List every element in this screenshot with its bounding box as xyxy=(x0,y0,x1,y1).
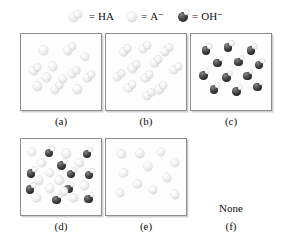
panel-label-a: (a) xyxy=(20,116,102,127)
panel-a-contents xyxy=(21,34,101,110)
panel-e[interactable] xyxy=(105,138,187,216)
a-minus-sphere-icon xyxy=(127,9,138,23)
panel-label-b: (b) xyxy=(105,116,187,127)
panel-c[interactable] xyxy=(190,33,272,111)
panel-e-contents xyxy=(106,139,186,215)
panel-b-contents xyxy=(106,34,186,110)
legend-item-ha: = HA xyxy=(69,7,114,25)
panel-label-c: (c) xyxy=(190,116,272,127)
oh-minus-sphere-icon xyxy=(177,9,189,23)
legend-equals-ha: = xyxy=(89,11,95,22)
legend-equals-a-minus: = xyxy=(141,11,147,22)
legend-label-a-minus: A⁻ xyxy=(150,11,164,22)
none-option-text[interactable]: None xyxy=(190,203,272,214)
ha-dimer-icon xyxy=(69,9,86,23)
legend-item-a-minus: = A⁻ xyxy=(127,7,164,25)
legend-item-oh-minus: = OH⁻ xyxy=(177,7,223,25)
panel-label-f: (f) xyxy=(190,221,272,232)
panel-d[interactable] xyxy=(20,138,102,216)
panel-label-d: (d) xyxy=(20,221,102,232)
legend-label-oh-minus: OH⁻ xyxy=(201,11,223,22)
panel-d-contents xyxy=(21,139,101,215)
legend-label-ha: HA xyxy=(98,11,114,22)
legend: = HA = A⁻ = OH⁻ xyxy=(0,6,292,26)
panel-label-e: (e) xyxy=(105,221,187,232)
panel-c-contents xyxy=(191,34,271,110)
legend-equals-oh-minus: = xyxy=(192,11,198,22)
panel-a[interactable] xyxy=(20,33,102,111)
panel-b[interactable] xyxy=(105,33,187,111)
